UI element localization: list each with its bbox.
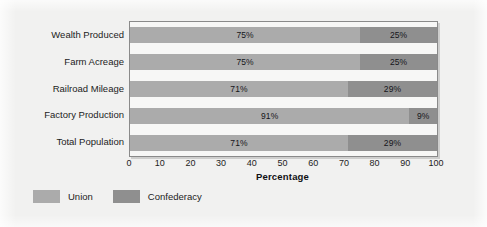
x-axis-tick-label: 30 <box>216 158 226 168</box>
x-axis-tick-label: 60 <box>308 158 318 168</box>
bar-segment-confederacy: 25% <box>360 27 437 43</box>
legend-swatch <box>113 190 140 203</box>
x-axis-tick-label: 90 <box>400 158 410 168</box>
bar-segment-union: 91% <box>130 108 409 124</box>
bar-row: 91%9% <box>130 108 437 124</box>
bar-segment-confederacy: 25% <box>360 54 437 70</box>
legend-label: Union <box>68 191 93 202</box>
legend-item: Confederacy <box>113 190 202 203</box>
category-label: Railroad Mileage <box>53 83 124 94</box>
bar-row: 71%29% <box>130 81 437 97</box>
legend-label: Confederacy <box>148 191 202 202</box>
x-axis-tick-label: 0 <box>126 158 131 168</box>
bar-segment-union: 75% <box>130 27 360 43</box>
bar-value-label: 9% <box>409 108 437 124</box>
x-axis-tick-label: 50 <box>277 158 287 168</box>
category-label: Factory Production <box>44 109 124 120</box>
bar-segment-union: 75% <box>130 54 360 70</box>
bar-value-label: 29% <box>348 135 437 151</box>
bar-row: 75%25% <box>130 27 437 43</box>
bar-segment-union: 71% <box>130 81 348 97</box>
category-label: Wealth Produced <box>51 29 124 40</box>
bar-segment-confederacy: 9% <box>409 108 437 124</box>
bar-value-label: 75% <box>130 27 360 43</box>
bar-value-label: 71% <box>130 135 348 151</box>
plot-area: 75%25%75%25%71%29%91%9%71%29% <box>129 21 438 157</box>
x-axis-tick-label: 40 <box>247 158 257 168</box>
x-axis-ticks: 0102030405060708090100 <box>129 158 436 170</box>
category-label: Farm Acreage <box>64 56 124 67</box>
bar-value-label: 91% <box>130 108 409 124</box>
bar-row: 75%25% <box>130 54 437 70</box>
chart-figure: Wealth ProducedFarm AcreageRailroad Mile… <box>0 0 487 227</box>
chart-legend: UnionConfederacy <box>33 190 202 203</box>
x-axis-tick-label: 70 <box>339 158 349 168</box>
bar-segment-confederacy: 29% <box>348 135 437 151</box>
x-axis-tick-label: 20 <box>185 158 195 168</box>
x-axis-title: Percentage <box>129 171 436 182</box>
bar-row: 71%29% <box>130 135 437 151</box>
bar-value-label: 25% <box>360 27 437 43</box>
category-axis-labels: Wealth ProducedFarm AcreageRailroad Mile… <box>8 21 124 155</box>
legend-item: Union <box>33 190 93 203</box>
category-label: Total Population <box>56 136 124 147</box>
x-axis-tick-label: 10 <box>155 158 165 168</box>
x-axis-tick-label: 100 <box>428 158 443 168</box>
bar-value-label: 71% <box>130 81 348 97</box>
bar-segment-union: 71% <box>130 135 348 151</box>
bar-value-label: 29% <box>348 81 437 97</box>
bar-segment-confederacy: 29% <box>348 81 437 97</box>
bar-value-label: 25% <box>360 54 437 70</box>
legend-swatch <box>33 190 60 203</box>
bar-value-label: 75% <box>130 54 360 70</box>
x-axis-tick-label: 80 <box>370 158 380 168</box>
